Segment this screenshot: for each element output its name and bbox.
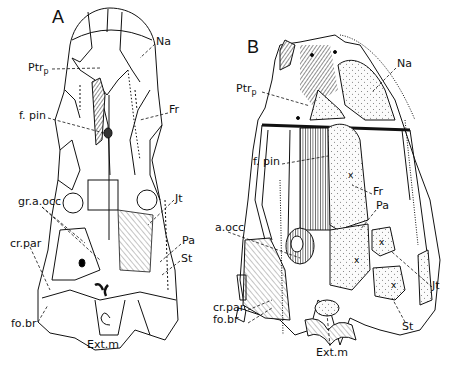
label-a-st: St: [181, 253, 192, 264]
label-a-fr: Fr: [169, 104, 179, 115]
panel-a-skull: [38, 8, 178, 350]
label-a-ptrp: Ptrp: [28, 62, 49, 76]
label-a-cr-par: cr.par: [10, 238, 41, 249]
svg-text:x: x: [391, 280, 397, 290]
label-b-pa: Pa: [376, 200, 389, 211]
skull-figure: x x x x: [0, 0, 459, 370]
panel-a-letter: A: [52, 8, 64, 26]
svg-text:x: x: [379, 237, 385, 247]
label-a-f-pin: f. pin: [19, 110, 46, 121]
label-b-f-pin: f. pin: [253, 156, 280, 167]
label-b-ext-m: Ext.m: [316, 347, 348, 358]
panel-b-skull: x x x x: [236, 35, 440, 345]
label-a-jt: Jt: [175, 193, 183, 204]
label-b-na: Na: [397, 58, 412, 69]
label-a-ext-m: Ext.m: [87, 339, 119, 350]
svg-text:x: x: [348, 170, 354, 180]
label-a-gr-a-occ: gr.a.occ: [18, 196, 61, 207]
panel-b-letter: B: [247, 38, 259, 56]
label-a-fo-br: fo.br: [11, 318, 36, 329]
label-a-na: Na: [156, 36, 171, 47]
label-b-st: St: [402, 321, 413, 332]
label-b-cr-par: cr.par: [213, 302, 244, 313]
label-a-pa: Pa: [182, 235, 195, 246]
label-b-jt: Jt: [432, 280, 440, 291]
label-b-ptrp: Ptrp: [236, 83, 257, 97]
svg-text:x: x: [354, 255, 360, 265]
label-b-a-occ: a.occ: [215, 222, 244, 233]
label-b-fr: Fr: [373, 186, 383, 197]
label-b-fo-br: fo.br: [213, 314, 238, 325]
